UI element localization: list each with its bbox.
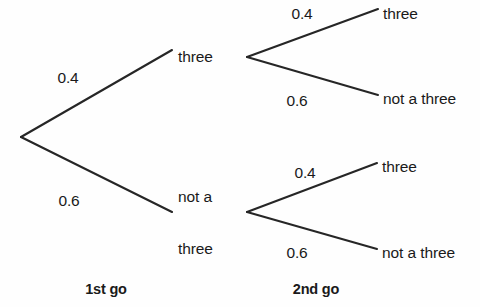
- branch-line-1-three: [21, 50, 172, 137]
- stage-label-1st-go: 1st go: [85, 281, 127, 297]
- probability-label-stage2b-not-a-three: 0.6: [286, 244, 307, 261]
- node-label-stage2a-not-a-three: not a three: [383, 90, 456, 107]
- node-label-stage1-three: three: [178, 48, 213, 65]
- branch-line-2b-not-a-three: [247, 212, 377, 249]
- stage-label-2nd-go: 2nd go: [293, 281, 339, 297]
- branch-line-2a-not-a-three: [247, 57, 378, 95]
- node-label-stage1-not-a-three-line1: not a: [178, 187, 213, 204]
- probability-label-stage1-not-a-three: 0.6: [58, 192, 79, 209]
- node-label-stage2b-three: three: [382, 158, 417, 175]
- probability-label-stage2a-three: 0.4: [291, 5, 312, 22]
- node-label-stage1-not-a-three: not a three: [178, 153, 213, 292]
- node-label-stage1-not-a-three-line2: three: [178, 239, 213, 256]
- node-label-stage2a-three: three: [383, 5, 418, 22]
- probability-tree-diagram: 0.4 0.6 three not a three 0.4 0.6 0.4 0.…: [0, 0, 480, 307]
- probability-label-stage1-three: 0.4: [57, 69, 78, 86]
- probability-label-stage2a-not-a-three: 0.6: [286, 92, 307, 109]
- branch-line-1-not-a-three: [21, 137, 172, 212]
- probability-label-stage2b-three: 0.4: [294, 164, 315, 181]
- node-label-stage2b-not-a-three: not a three: [382, 244, 455, 261]
